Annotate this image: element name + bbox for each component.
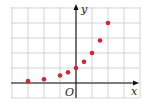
data-point bbox=[42, 77, 47, 82]
y-axis-arrow-icon bbox=[74, 4, 79, 10]
axes bbox=[11, 4, 139, 98]
origin-label: O bbox=[65, 86, 74, 99]
data-point bbox=[66, 70, 71, 75]
data-point bbox=[82, 60, 87, 65]
data-point bbox=[74, 66, 79, 71]
data-point bbox=[98, 38, 103, 43]
data-point bbox=[58, 73, 63, 78]
data-point bbox=[106, 21, 111, 26]
data-point bbox=[90, 51, 95, 56]
data-point bbox=[26, 79, 31, 84]
x-axis-label: x bbox=[131, 85, 138, 98]
scatter-plot: y x O bbox=[0, 0, 142, 103]
data-points bbox=[26, 21, 111, 84]
y-axis-label: y bbox=[80, 3, 88, 16]
